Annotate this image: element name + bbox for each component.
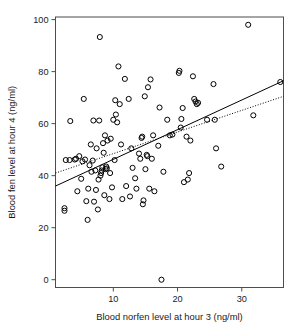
data-point bbox=[113, 98, 118, 103]
y-tick-label: 60 bbox=[38, 119, 48, 129]
data-point bbox=[88, 142, 93, 147]
y-axis: 020406080100 bbox=[33, 15, 55, 285]
data-point bbox=[151, 133, 156, 138]
data-point bbox=[148, 77, 153, 82]
data-point bbox=[156, 143, 161, 148]
x-tick-label: 10 bbox=[108, 294, 118, 304]
data-point bbox=[91, 118, 96, 123]
data-point bbox=[214, 146, 219, 151]
data-point bbox=[251, 113, 256, 118]
data-point bbox=[97, 118, 102, 123]
data-point bbox=[134, 186, 139, 191]
data-point bbox=[188, 138, 193, 143]
data-point bbox=[179, 116, 184, 121]
data-point bbox=[109, 185, 114, 190]
data-point bbox=[68, 118, 73, 123]
x-tick-label: 20 bbox=[172, 294, 182, 304]
data-point bbox=[138, 156, 143, 161]
data-point bbox=[102, 193, 107, 198]
data-point bbox=[87, 163, 92, 168]
data-point bbox=[190, 74, 195, 79]
data-point bbox=[187, 171, 192, 176]
fit-lines bbox=[56, 81, 284, 186]
data-point bbox=[124, 184, 129, 189]
data-point bbox=[130, 165, 135, 170]
data-point bbox=[149, 156, 154, 161]
data-point bbox=[91, 199, 96, 204]
data-point bbox=[75, 189, 80, 194]
y-tick-label: 40 bbox=[38, 171, 48, 181]
x-axis-title: Blood norfen level at hour 3 (ng/ml) bbox=[96, 311, 242, 322]
data-point bbox=[180, 105, 185, 110]
data-point bbox=[117, 102, 122, 107]
data-point bbox=[127, 194, 132, 199]
data-point bbox=[143, 167, 148, 172]
scatter-plot-figure: 020406080100102030Blood norfen level at … bbox=[0, 0, 297, 334]
data-point bbox=[95, 207, 100, 212]
data-point bbox=[142, 94, 147, 99]
solid-regression-line bbox=[56, 81, 284, 186]
data-point bbox=[159, 277, 164, 282]
plot-frame bbox=[56, 17, 284, 288]
y-tick-label: 80 bbox=[38, 67, 48, 77]
x-axis: 102030 bbox=[108, 288, 247, 305]
data-point bbox=[145, 85, 150, 90]
data-point bbox=[126, 96, 131, 101]
data-point bbox=[165, 117, 170, 122]
data-point bbox=[79, 176, 84, 181]
data-point bbox=[93, 187, 98, 192]
data-point bbox=[84, 199, 89, 204]
data-point bbox=[81, 96, 86, 101]
y-tick-label: 0 bbox=[43, 275, 48, 285]
data-point bbox=[152, 189, 157, 194]
y-axis-title: Blood fen level at hour 4 (ng/ml) bbox=[6, 86, 17, 219]
data-point bbox=[86, 186, 91, 191]
data-points bbox=[62, 22, 283, 282]
x-tick-label: 30 bbox=[237, 294, 247, 304]
data-point bbox=[107, 197, 112, 202]
data-point bbox=[185, 177, 190, 182]
data-point bbox=[133, 176, 138, 181]
data-point bbox=[161, 169, 166, 174]
data-point bbox=[97, 34, 102, 39]
data-point bbox=[122, 76, 127, 81]
data-point bbox=[120, 197, 125, 202]
data-point bbox=[157, 105, 162, 110]
data-point bbox=[108, 171, 113, 176]
data-point bbox=[90, 158, 95, 163]
data-point bbox=[116, 64, 121, 69]
data-point bbox=[246, 22, 251, 27]
chart-canvas: 020406080100102030Blood norfen level at … bbox=[0, 0, 297, 334]
data-point bbox=[94, 146, 99, 151]
data-point bbox=[118, 142, 123, 147]
data-point bbox=[219, 164, 224, 169]
data-point bbox=[115, 120, 120, 125]
data-point bbox=[147, 186, 152, 191]
data-point bbox=[211, 82, 216, 87]
y-tick-label: 20 bbox=[38, 223, 48, 233]
y-tick-label: 100 bbox=[33, 15, 48, 25]
data-point bbox=[101, 150, 106, 155]
data-point bbox=[102, 133, 107, 138]
data-point bbox=[85, 217, 90, 222]
data-point bbox=[113, 112, 118, 117]
data-point bbox=[136, 151, 141, 156]
